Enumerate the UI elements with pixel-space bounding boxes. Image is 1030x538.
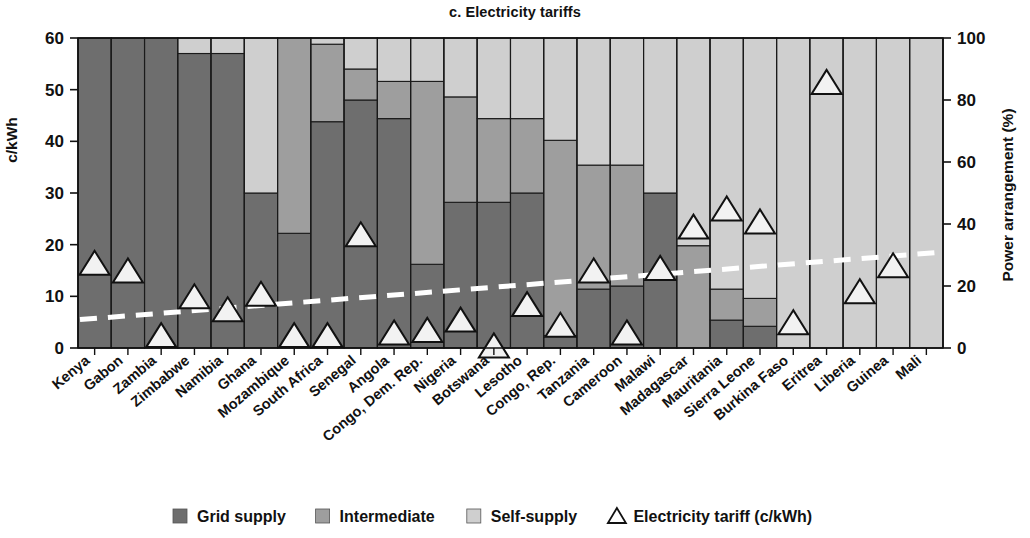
- bar-segment[interactable]: [610, 38, 643, 165]
- y-tick-label: 50: [45, 81, 64, 100]
- bar-segment[interactable]: [743, 326, 776, 348]
- bar-segment[interactable]: [544, 140, 577, 335]
- bar-segment[interactable]: [876, 38, 909, 348]
- y2-tick-label: 0: [957, 339, 966, 358]
- bar-segment[interactable]: [511, 38, 544, 119]
- bar-segment[interactable]: [577, 38, 610, 165]
- bar-stack[interactable]: [78, 38, 111, 348]
- bar-stack[interactable]: [644, 38, 677, 348]
- bar-segment[interactable]: [411, 38, 444, 81]
- bar-segment[interactable]: [743, 38, 776, 298]
- bars-group: [78, 38, 943, 348]
- y-tick-label: 0: [55, 339, 64, 358]
- bar-segment[interactable]: [610, 165, 643, 286]
- bar-segment[interactable]: [910, 38, 943, 348]
- bar-segment[interactable]: [511, 193, 544, 348]
- bar-segment[interactable]: [710, 38, 743, 289]
- bar-stack[interactable]: [710, 38, 743, 348]
- bar-segment[interactable]: [710, 289, 743, 320]
- bar-stack[interactable]: [377, 38, 410, 348]
- y-tick-label: 20: [45, 236, 64, 255]
- y-tick-label: 10: [45, 287, 64, 306]
- y2-axis-title: Power arrangement (%): [999, 108, 1016, 281]
- bar-stack[interactable]: [444, 38, 477, 348]
- y2-tick-label: 60: [957, 153, 976, 172]
- bar-stack[interactable]: [910, 38, 943, 348]
- electricity-tariffs-chart: c. Electricity tariffs 01020304050600204…: [0, 0, 1030, 538]
- bar-segment[interactable]: [211, 38, 244, 54]
- bar-stack[interactable]: [111, 38, 144, 348]
- bar-segment[interactable]: [777, 38, 810, 348]
- bar-segment[interactable]: [311, 44, 344, 122]
- legend-label: Grid supply: [197, 508, 286, 525]
- bar-segment[interactable]: [244, 193, 277, 348]
- bar-segment[interactable]: [677, 246, 710, 348]
- bar-segment[interactable]: [178, 38, 211, 54]
- legend-label: Electricity tariff (c/kWh): [633, 508, 812, 525]
- bar-stack[interactable]: [677, 38, 710, 348]
- bar-segment[interactable]: [411, 81, 444, 264]
- y2-tick-label: 80: [957, 91, 976, 110]
- bar-segment[interactable]: [78, 38, 111, 348]
- bar-segment[interactable]: [477, 119, 510, 203]
- bar-segment[interactable]: [244, 38, 277, 193]
- y-tick-label: 40: [45, 132, 64, 151]
- bar-segment[interactable]: [377, 81, 410, 118]
- legend-swatch: [173, 509, 187, 523]
- legend-swatch: [316, 509, 330, 523]
- bar-stack[interactable]: [411, 38, 444, 348]
- y-tick-label: 60: [45, 29, 64, 48]
- bar-stack[interactable]: [477, 38, 510, 348]
- bar-segment[interactable]: [444, 97, 477, 202]
- bar-stack[interactable]: [876, 38, 909, 348]
- y-axis-title: c/kWh: [3, 117, 20, 163]
- legend-label: Intermediate: [340, 508, 435, 525]
- bar-segment[interactable]: [377, 119, 410, 348]
- bar-segment[interactable]: [311, 122, 344, 348]
- bar-segment[interactable]: [544, 38, 577, 140]
- plot-area: 0102030405060020406080100KenyaGabonZambi…: [45, 29, 985, 445]
- bar-stack[interactable]: [610, 38, 643, 348]
- bar-stack[interactable]: [145, 38, 178, 348]
- bar-segment[interactable]: [444, 38, 477, 97]
- bar-segment[interactable]: [344, 38, 377, 69]
- bar-segment[interactable]: [743, 298, 776, 326]
- legend-label: Self-supply: [491, 508, 577, 525]
- bar-segment[interactable]: [477, 202, 510, 348]
- bar-segment[interactable]: [377, 38, 410, 81]
- legend-swatch: [467, 509, 481, 523]
- y-tick-label: 30: [45, 184, 64, 203]
- bar-segment[interactable]: [511, 119, 544, 193]
- y2-tick-label: 100: [957, 29, 985, 48]
- bar-segment[interactable]: [344, 69, 377, 100]
- bar-segment[interactable]: [311, 38, 344, 44]
- bar-stack[interactable]: [777, 38, 810, 348]
- chart-title: c. Electricity tariffs: [449, 4, 581, 20]
- bar-segment[interactable]: [710, 320, 743, 348]
- bar-stack[interactable]: [544, 38, 577, 348]
- bar-segment[interactable]: [278, 38, 311, 233]
- y2-tick-label: 40: [957, 215, 976, 234]
- bar-segment[interactable]: [577, 289, 610, 348]
- bar-segment[interactable]: [145, 38, 178, 348]
- bar-stack[interactable]: [577, 38, 610, 348]
- chart-legend: Grid supplyIntermediateSelf-supplyElectr…: [173, 508, 812, 525]
- bar-segment[interactable]: [477, 38, 510, 119]
- bar-segment[interactable]: [644, 38, 677, 193]
- bar-stack[interactable]: [743, 38, 776, 348]
- y2-tick-label: 20: [957, 277, 976, 296]
- bar-stack[interactable]: [344, 38, 377, 348]
- bar-segment[interactable]: [111, 38, 144, 348]
